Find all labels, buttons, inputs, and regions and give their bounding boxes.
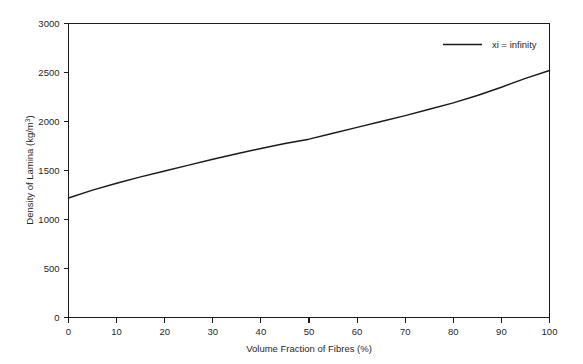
x-tick-label-70: 70 (400, 326, 411, 337)
y-axis-title: Density of Lamina (kg/m3) (24, 115, 36, 224)
x-tick-label-100: 100 (542, 326, 558, 337)
y-tick-label-1500: 1500 (38, 165, 59, 176)
x-tick-label-80: 80 (448, 326, 459, 337)
y-tick-label-2500: 2500 (38, 67, 59, 78)
x-tick-label-60: 60 (352, 326, 363, 337)
chart-figure: 0102030405060708090100 05001000150020002… (0, 0, 583, 364)
legend-label-xi-infinity: xi = infinity (492, 39, 537, 50)
y-tick-label-0: 0 (54, 312, 59, 323)
x-tick-label-50: 50 (304, 326, 315, 337)
chart-background (0, 0, 583, 364)
x-tick-label-20: 20 (159, 326, 170, 337)
x-tick-label-40: 40 (256, 326, 267, 337)
x-tick-label-0: 0 (66, 326, 71, 337)
y-tick-label-2000: 2000 (38, 116, 59, 127)
y-tick-label-1000: 1000 (38, 214, 59, 225)
y-tick-label-500: 500 (44, 263, 60, 274)
y-tick-label-3000: 3000 (38, 18, 59, 29)
x-tick-label-30: 30 (208, 326, 219, 337)
density-vs-volume-fraction-chart: 0102030405060708090100 05001000150020002… (0, 0, 583, 364)
x-tick-label-90: 90 (496, 326, 507, 337)
x-axis-title: Volume Fraction of Fibres (%) (246, 343, 372, 354)
x-tick-label-10: 10 (111, 326, 122, 337)
